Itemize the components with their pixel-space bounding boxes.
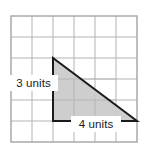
vertical-leg-label: 3 units xyxy=(9,75,58,91)
horizontal-leg-label: 4 units xyxy=(71,116,121,132)
geometry-figure: 3 units 4 units xyxy=(0,0,152,150)
